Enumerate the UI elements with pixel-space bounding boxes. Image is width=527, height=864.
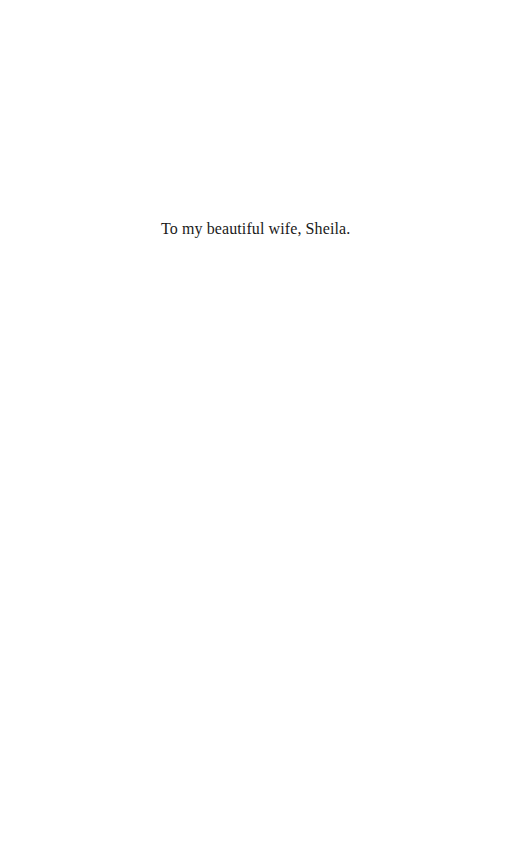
dedication-text: To my beautiful wife, Sheila.	[161, 218, 350, 240]
dedication-page: To my beautiful wife, Sheila.	[0, 0, 527, 864]
